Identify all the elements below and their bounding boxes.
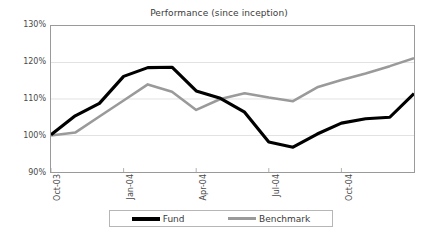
legend-swatch-fund-icon — [132, 217, 160, 221]
y-axis-tick-label: 100% — [2, 132, 46, 140]
chart-title: Performance (since inception) — [0, 8, 438, 18]
performance-chart: Performance (since inception) 130%120%11… — [0, 0, 438, 238]
x-axis-tick-label: Jul-04 — [273, 174, 281, 197]
y-axis-tick-label: 90% — [2, 169, 46, 177]
chart-legend: FundBenchmark — [109, 210, 333, 227]
x-axis-tick-label: Jan-04 — [127, 174, 135, 199]
y-axis-tick-label: 130% — [2, 21, 46, 29]
plot-area — [50, 25, 415, 173]
legend-item-benchmark[interactable]: Benchmark — [228, 214, 310, 224]
y-axis: 130%120%110%100%90% — [0, 25, 46, 173]
x-axis-tick-label: Oct-03 — [54, 174, 62, 201]
legend-swatch-benchmark-icon — [228, 217, 256, 220]
legend-item-fund[interactable]: Fund — [132, 214, 185, 224]
legend-label: Benchmark — [259, 214, 310, 224]
legend-label: Fund — [163, 214, 185, 224]
x-axis: Oct-03Jan-04Apr-04Jul-04Oct-04 — [50, 174, 415, 208]
x-axis-tick-label: Oct-04 — [346, 174, 354, 201]
y-axis-tick-label: 110% — [2, 95, 46, 103]
y-axis-tick-label: 120% — [2, 58, 46, 66]
plot-svg — [51, 26, 414, 172]
x-axis-tick-label: Apr-04 — [200, 174, 208, 200]
